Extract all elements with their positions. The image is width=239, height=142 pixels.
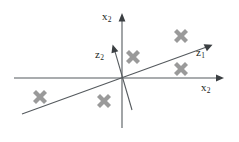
x-marker	[99, 96, 110, 107]
horizontal-axis-label: x2	[201, 82, 210, 93]
x-marker	[35, 92, 46, 103]
z1-axis-label: z1	[196, 47, 205, 58]
z1-axis	[22, 44, 213, 114]
x-marker	[176, 64, 187, 75]
horizontal-axis-arrowhead	[216, 75, 224, 82]
z2-axis-label: z2	[95, 49, 104, 60]
z2-axis-arrowhead	[112, 45, 119, 54]
vertical-axis-arrowhead	[119, 13, 126, 22]
figure-canvas	[0, 0, 239, 142]
x-marker	[176, 31, 187, 42]
scatter-markers	[35, 31, 187, 107]
vertical-axis	[119, 13, 126, 128]
horizontal-axis	[14, 75, 224, 82]
z1-axis-line	[22, 47, 208, 115]
vertical-axis-label: x2	[102, 11, 111, 22]
x-marker	[128, 52, 139, 63]
axis-rotation-figure: x2 x2 z1 z2	[0, 0, 239, 142]
